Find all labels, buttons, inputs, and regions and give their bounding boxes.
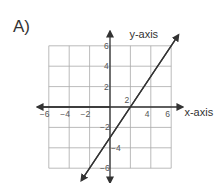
svg-text:4: 4 (145, 109, 150, 119)
coordinate-plane: y-axisx-axis −6−4−2246642−2−4−6 (0, 0, 215, 183)
svg-text:−4: −4 (60, 109, 70, 119)
svg-text:y-axis: y-axis (129, 28, 158, 40)
axes: y-axisx-axis (38, 28, 214, 183)
plot-line (81, 35, 178, 180)
svg-text:−2: −2 (81, 109, 91, 119)
svg-text:2: 2 (124, 95, 129, 105)
svg-text:x-axis: x-axis (184, 106, 213, 118)
svg-text:−6: −6 (100, 163, 110, 173)
svg-text:6: 6 (104, 41, 109, 51)
svg-text:6: 6 (165, 109, 170, 119)
svg-text:−2: −2 (100, 122, 110, 132)
svg-text:−6: −6 (40, 109, 50, 119)
svg-text:−4: −4 (111, 143, 121, 153)
svg-text:2: 2 (104, 82, 109, 92)
svg-text:4: 4 (104, 61, 109, 71)
